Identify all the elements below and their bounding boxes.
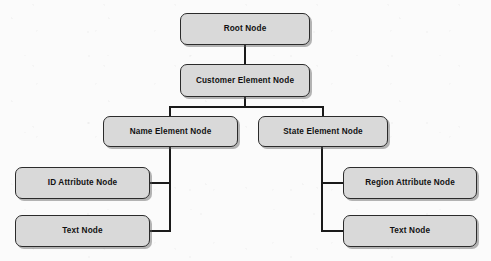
node-root[interactable]: Root Node <box>180 13 310 45</box>
node-state-element[interactable]: State Element Node <box>258 116 388 147</box>
node-id-attribute[interactable]: ID Attribute Node <box>15 167 150 199</box>
node-text-right-label: Text Node <box>386 225 434 236</box>
node-region-attribute[interactable]: Region Attribute Node <box>343 167 477 199</box>
node-root-label: Root Node <box>220 23 271 34</box>
node-region-attribute-label: Region Attribute Node <box>361 177 459 188</box>
node-state-element-label: State Element Node <box>279 126 367 137</box>
node-text-right[interactable]: Text Node <box>343 215 477 247</box>
diagram-canvas: Root Node Customer Element Node Name Ele… <box>0 0 491 261</box>
node-name-element[interactable]: Name Element Node <box>103 116 238 147</box>
node-text-left[interactable]: Text Node <box>15 215 150 247</box>
node-customer-element-label: Customer Element Node <box>192 75 298 86</box>
node-text-left-label: Text Node <box>58 225 106 236</box>
node-name-element-label: Name Element Node <box>126 126 216 137</box>
node-customer-element[interactable]: Customer Element Node <box>180 64 310 97</box>
node-id-attribute-label: ID Attribute Node <box>44 177 122 188</box>
